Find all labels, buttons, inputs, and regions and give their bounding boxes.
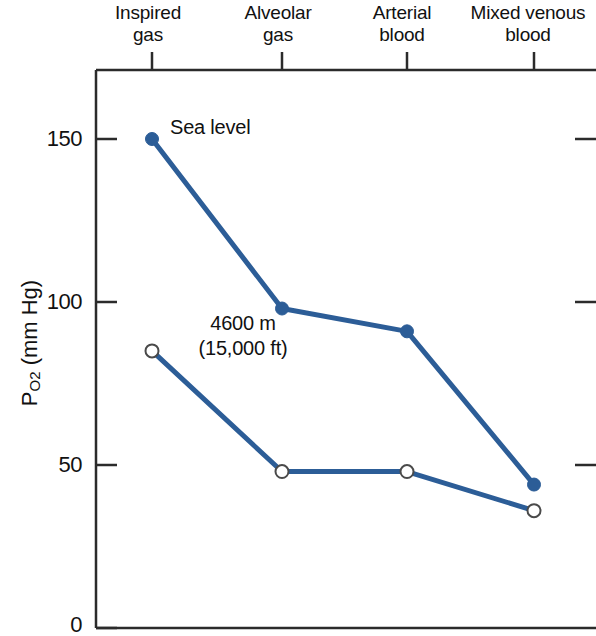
y-axis-ticks-right (575, 139, 596, 465)
data-point (401, 325, 414, 338)
data-point (528, 504, 541, 517)
data-point (276, 302, 289, 315)
data-point (528, 478, 541, 491)
series-line (152, 351, 534, 511)
y-axis-ticks-left (96, 139, 117, 628)
x-axis-ticks (152, 52, 534, 70)
data-point (146, 133, 159, 146)
data-point (146, 344, 159, 357)
data-series-layer (146, 133, 541, 518)
series-line (152, 139, 534, 485)
data-point (401, 465, 414, 478)
axis-frame (96, 70, 596, 628)
data-point (276, 465, 289, 478)
series-sea-level (146, 133, 541, 492)
series-altitude (146, 344, 541, 517)
